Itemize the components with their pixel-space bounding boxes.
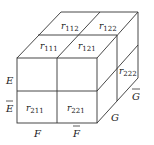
cell-r222: r222 — [119, 66, 137, 78]
contingency-cube-diagram: r112 r122 r111 r121 r222 r211 r221 E E F… — [0, 0, 154, 145]
label-F: F — [33, 128, 42, 139]
label-E-bar: E — [5, 103, 14, 114]
cell-r122: r122 — [99, 21, 117, 33]
label-E: E — [5, 75, 14, 86]
cell-r221: r221 — [67, 103, 85, 115]
cell-r121: r121 — [78, 41, 96, 53]
label-G-bar: G — [132, 91, 140, 102]
label-F-bar: F — [72, 128, 81, 139]
label-G: G — [111, 112, 119, 123]
cell-r112: r112 — [61, 21, 79, 33]
cell-r111: r111 — [40, 41, 58, 53]
cell-r211: r211 — [26, 103, 44, 115]
